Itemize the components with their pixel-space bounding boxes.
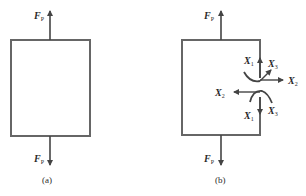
x3-lower-label: X3 <box>267 105 278 117</box>
x2-lower-label: X2 <box>214 87 225 99</box>
x3-upper-label: X3 <box>267 58 278 70</box>
top-force-label-b: FP <box>203 10 215 22</box>
frame-box-a <box>11 40 90 136</box>
bottom-force-label-a: FP <box>33 153 45 165</box>
x3-moment-upper-arc <box>244 72 260 81</box>
upper-cut-forces: X1 X3 X2 <box>243 55 298 87</box>
panel-b: FP FP (b) X1 X3 X2 X2 X1 X3 <box>182 10 298 185</box>
top-force-label-a: FP <box>33 10 45 22</box>
x1-upper-label: X1 <box>243 55 254 67</box>
bottom-force-label-b: FP <box>203 153 215 165</box>
panel-a: FP FP (a) <box>11 10 90 185</box>
x1-lower-label: X1 <box>243 110 254 122</box>
caption-a: (a) <box>42 175 52 185</box>
caption-b: (b) <box>215 175 226 185</box>
x2-upper-label: X2 <box>287 75 298 87</box>
lower-cut-forces: X2 X1 X3 <box>214 87 278 122</box>
force-diagram: FP FP (a) FP FP (b) X1 X3 X2 X2 X1 X3 <box>0 0 306 196</box>
